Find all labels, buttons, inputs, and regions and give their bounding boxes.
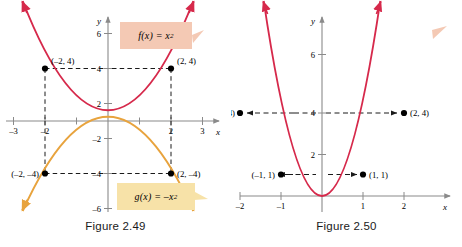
y-axis-label: y (310, 16, 315, 26)
callout-f-tail (432, 26, 447, 39)
callout-g-tail (194, 192, 208, 200)
point-label: (1, 1) (369, 170, 388, 180)
x-axis-label: x (442, 202, 447, 212)
y-tick-label: 6 (97, 29, 102, 39)
y-tick-labels-2-50: 6 4 2 (311, 50, 316, 160)
callout-f-label: f(x) = x2 (120, 22, 192, 49)
point-label: (2, –4) (177, 169, 201, 179)
point-label: (2, 4) (177, 56, 196, 66)
callout-f-text: f(x) = x (138, 30, 170, 41)
x-tick-labels-2-50: –2 –1 1 2 (235, 201, 406, 211)
figure-panel-2-49: –3 –2 2 3 x 6 4 2 –2 –4 –6 (0, 0, 231, 247)
point-label: (–2, –4) (11, 169, 39, 179)
figure-2-50-plot: –2 –1 1 2 x 6 4 2 y (231, 0, 462, 222)
point-label: (–2, 4) (51, 56, 75, 66)
y-axis-label: y (96, 16, 101, 26)
curve-f-arrow-left (22, 2, 27, 14)
callout-f-exponent: 2 (170, 32, 174, 40)
figure-panel-2-50: –2 –1 1 2 x 6 4 2 y (231, 0, 462, 247)
y-tick-label: 6 (311, 50, 316, 60)
x-tick-label: –2 (235, 201, 245, 211)
x-tick-labels-2-49: –3 –2 2 3 (8, 126, 204, 136)
figure-board: –3 –2 2 3 x 6 4 2 –2 –4 –6 (0, 0, 462, 247)
figure-2-49-plot: –3 –2 2 3 x 6 4 2 –2 –4 –6 (0, 0, 231, 222)
point-marker (42, 170, 48, 176)
x-tick-label: –1 (276, 201, 286, 211)
point-marker (278, 171, 284, 177)
point-marker (401, 110, 407, 116)
callout-g-text: g(x) = –x (135, 191, 174, 202)
callout-g-exponent: 2 (174, 193, 178, 201)
x-tick-label: 3 (200, 126, 204, 136)
figure-caption-2-49: Figure 2.49 (0, 220, 231, 232)
y-tick-label: –2 (91, 134, 101, 144)
point-marker (42, 65, 48, 71)
point-label: (–2, 4) (231, 108, 235, 118)
point-marker (168, 65, 174, 71)
y-tick-label: 2 (311, 150, 315, 160)
y-tick-label: –6 (91, 204, 101, 214)
point-marker (168, 170, 174, 176)
curve-f-arrow-right (189, 2, 194, 14)
point-label: (2, 4) (410, 108, 429, 118)
x-axis-label: x (215, 127, 220, 137)
callout-g-label: g(x) = –x2 (117, 183, 195, 210)
y-tick-label: 2 (97, 99, 101, 109)
point-marker (360, 171, 366, 177)
x-tick-label: 2 (402, 201, 406, 211)
point-marker (237, 110, 243, 116)
callout-f-tail (192, 30, 204, 43)
x-tick-label: –3 (8, 126, 18, 136)
point-labels-2-50: (–2, 4) (2, 4) (–1, 1) (1, 1) (231, 108, 429, 180)
point-label: (–1, 1) (252, 170, 276, 180)
figure-caption-2-50: Figure 2.50 (231, 220, 462, 232)
x-tick-label: 1 (361, 201, 365, 211)
